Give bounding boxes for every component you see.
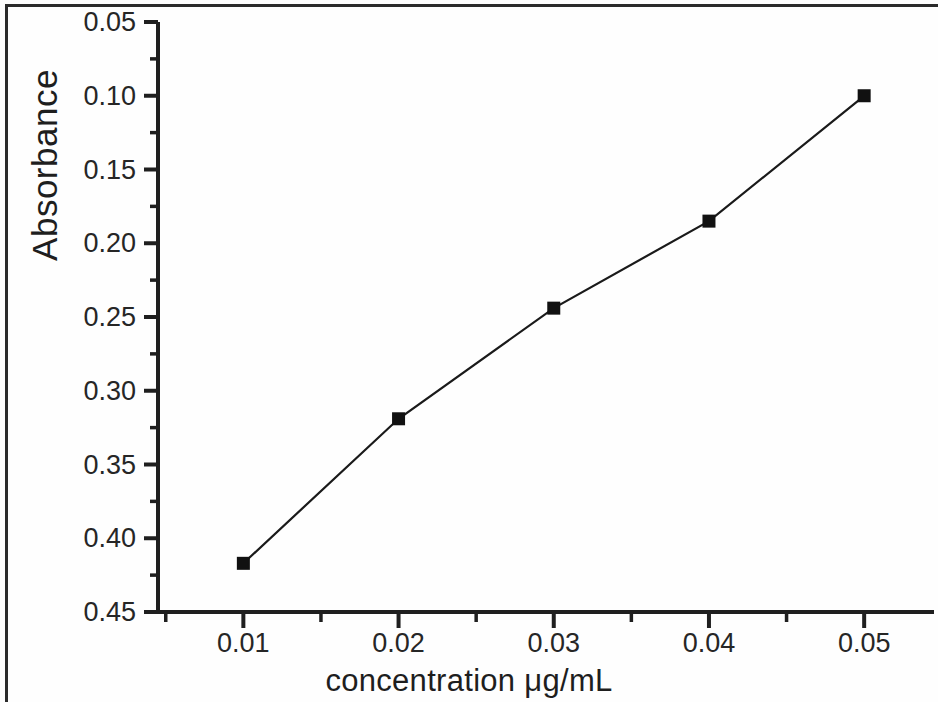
data-series-line — [243, 96, 864, 564]
data-point-marker — [702, 215, 715, 228]
x-tick-label: 0.03 — [527, 628, 580, 659]
chart-plot-area — [0, 0, 938, 702]
y-tick-label: 0.45 — [0, 597, 136, 628]
x-tick-label: 0.05 — [838, 628, 891, 659]
chart-page: Absorbance concentration μg/mL 0.450.400… — [0, 0, 938, 702]
y-tick-label: 0.05 — [0, 7, 136, 38]
x-tick-label: 0.01 — [217, 628, 270, 659]
y-tick-label: 0.40 — [0, 523, 136, 554]
y-tick-label: 0.35 — [0, 449, 136, 480]
data-point-marker — [858, 89, 871, 102]
data-point-marker — [547, 302, 560, 315]
y-tick-label: 0.25 — [0, 302, 136, 333]
x-axis-ticks — [166, 612, 864, 628]
x-tick-label: 0.02 — [372, 628, 425, 659]
y-tick-label: 0.30 — [0, 375, 136, 406]
data-point-markers — [237, 89, 871, 570]
y-tick-label: 0.20 — [0, 228, 136, 259]
y-axis-ticks — [144, 22, 158, 612]
y-tick-label: 0.10 — [0, 80, 136, 111]
data-point-marker — [392, 412, 405, 425]
data-point-marker — [237, 557, 250, 570]
axis-lines — [158, 22, 934, 612]
y-tick-label: 0.15 — [0, 154, 136, 185]
x-tick-label: 0.04 — [683, 628, 736, 659]
